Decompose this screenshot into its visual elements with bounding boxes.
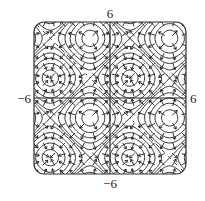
gradient-arrow bbox=[81, 20, 85, 26]
gradient-arrow bbox=[182, 123, 188, 127]
gradient-arrow bbox=[50, 153, 55, 158]
y-tick-label-min: −6 bbox=[103, 176, 117, 191]
contour-level-2 bbox=[70, 22, 186, 138]
gradient-arrow bbox=[81, 100, 85, 106]
gradient-arrow bbox=[148, 74, 155, 77]
gradient-arrow bbox=[122, 44, 127, 49]
gradient-arrow bbox=[59, 32, 66, 35]
gradient-arrow bbox=[140, 133, 145, 138]
gradient-arrow bbox=[80, 81, 85, 86]
gradient-arrow bbox=[43, 74, 49, 78]
gradient-arrow bbox=[93, 133, 96, 140]
gradient-arrow bbox=[149, 53, 154, 58]
gradient-arrow bbox=[93, 89, 96, 96]
gradient-arrow bbox=[50, 31, 55, 36]
gradient-arrow bbox=[122, 153, 128, 157]
gradient-arrow bbox=[148, 112, 155, 115]
x-tick-label-min: −6 bbox=[17, 91, 31, 106]
gradient-arrow bbox=[173, 89, 176, 96]
gradient-arrow bbox=[138, 112, 145, 115]
gradient-arrow bbox=[102, 44, 108, 48]
gradient-arrow bbox=[80, 160, 85, 165]
gradient-arrow bbox=[130, 110, 135, 115]
gradient-arrow bbox=[51, 159, 55, 165]
gradient-arrow bbox=[122, 111, 128, 115]
gradient-arrow bbox=[148, 153, 155, 156]
gradient-arrow bbox=[131, 53, 134, 60]
gradient-arrow bbox=[93, 80, 97, 86]
gradient-arrow bbox=[159, 123, 164, 128]
gradient-arrow bbox=[172, 73, 177, 78]
gradient-arrow bbox=[173, 133, 176, 140]
gradient-arrow bbox=[172, 159, 176, 165]
gradient-arrow bbox=[172, 110, 177, 115]
gradient-arrow bbox=[122, 32, 128, 36]
gradient-arrow bbox=[93, 110, 98, 115]
gradient-arrow bbox=[131, 159, 135, 165]
gradient-arrow bbox=[173, 143, 176, 150]
gradient-arrow bbox=[140, 53, 145, 58]
gradient-arrow bbox=[51, 133, 54, 140]
gradient-arrow bbox=[149, 63, 154, 68]
gradient-arrow bbox=[173, 53, 176, 60]
gradient-arrow bbox=[172, 80, 176, 86]
gradient-arrow bbox=[160, 20, 164, 26]
gradient-arrow bbox=[130, 31, 135, 36]
gradient-arrow bbox=[80, 44, 85, 49]
gradient-arrow bbox=[60, 133, 65, 138]
gradient-arrow bbox=[70, 133, 75, 138]
gradient-arrow bbox=[43, 111, 49, 115]
gradient-arrow bbox=[69, 32, 76, 35]
gradient-arrow bbox=[172, 153, 177, 158]
gradient-arrow bbox=[160, 100, 164, 106]
gradient-arrow bbox=[122, 74, 128, 78]
gradient-arrow bbox=[122, 123, 127, 128]
y-tick-label-max: 6 bbox=[107, 6, 114, 21]
gradient-arrow bbox=[50, 110, 55, 115]
gradient-arrow bbox=[149, 143, 154, 148]
gradient-arrow bbox=[69, 112, 76, 115]
gradient-arrow bbox=[69, 153, 76, 156]
gradient-arrow bbox=[112, 112, 119, 115]
gradient-arrow bbox=[131, 80, 135, 86]
gradient-arrow bbox=[60, 53, 65, 58]
x-tick-label-max: 6 bbox=[190, 91, 197, 106]
gradient-arrow bbox=[93, 31, 98, 36]
gradient-arrow bbox=[59, 112, 66, 115]
gradient-arrow bbox=[43, 153, 49, 157]
gradient-arrow bbox=[159, 81, 164, 86]
gradient-arrow bbox=[148, 32, 155, 35]
gradient-arrow bbox=[93, 143, 96, 150]
gradient-arrow bbox=[130, 73, 135, 78]
gradient-arrow bbox=[69, 74, 76, 77]
gradient-arrow bbox=[43, 123, 48, 128]
gradient-arrow bbox=[159, 44, 164, 49]
gradient-arrow bbox=[80, 123, 85, 128]
gradient-arrow bbox=[93, 53, 96, 60]
gradient-arrow bbox=[51, 80, 55, 86]
gradient-arrow bbox=[182, 44, 188, 48]
gradient-arrow bbox=[43, 44, 48, 49]
gradient-arrow bbox=[112, 32, 119, 35]
gradient-arrow bbox=[173, 63, 176, 70]
gradient-arrow bbox=[70, 143, 75, 148]
contour-gradient-plot: 6 −6 −6 6 bbox=[0, 0, 205, 201]
gradient-arrow bbox=[70, 53, 75, 58]
gradient-arrow bbox=[131, 133, 134, 140]
gradient-arrow bbox=[172, 31, 177, 36]
gradient-arrow bbox=[102, 100, 107, 105]
gradient-arrow bbox=[51, 53, 54, 60]
gradient-arrow bbox=[50, 73, 55, 78]
gradient-arrow bbox=[130, 153, 135, 158]
gradient-arrow bbox=[138, 32, 145, 35]
gradient-arrow bbox=[102, 123, 108, 127]
gradient-arrow bbox=[93, 73, 98, 78]
gradient-arrow bbox=[93, 153, 98, 158]
gradient-arrow bbox=[93, 63, 96, 70]
gradient-arrow bbox=[159, 160, 164, 165]
gradient-arrow bbox=[43, 32, 49, 36]
gradient-arrow bbox=[93, 159, 97, 165]
gradient-arrow bbox=[149, 133, 154, 138]
gradient-arrow bbox=[70, 63, 75, 68]
